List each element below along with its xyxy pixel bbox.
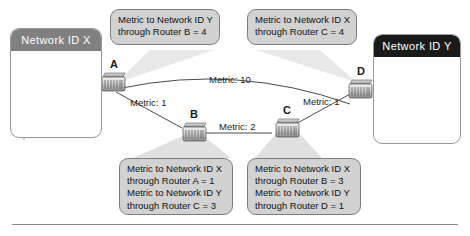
- router-icon: [349, 80, 372, 98]
- callout-d-line-1: Metric to Network ID X: [255, 14, 349, 26]
- network-box-x[interactable]: Network ID X: [10, 28, 102, 138]
- network-x-label: Network ID X: [11, 29, 101, 51]
- callout-router-c[interactable]: Metric to Network ID X through Router B …: [247, 158, 361, 215]
- network-x-hosts-area: [11, 51, 101, 137]
- router-icon: [102, 73, 125, 91]
- router-icon: [183, 123, 206, 141]
- callout-c-line-3: Metric to Network ID Y: [255, 187, 353, 199]
- cone-router-d: [256, 50, 356, 82]
- callout-a-line-2: through Router B = 4: [118, 26, 212, 38]
- callout-router-b[interactable]: Metric to Network ID X through Router A …: [119, 158, 233, 215]
- callout-b-line-2: through Router A = 1: [127, 175, 225, 187]
- router-label-c: C: [283, 104, 291, 116]
- cone-router-a: [116, 50, 214, 83]
- callout-router-a[interactable]: Metric to Network ID Y through Router B …: [110, 9, 220, 45]
- metric-label-b-c: Metric: 2: [219, 121, 255, 132]
- router-icon: [276, 119, 299, 137]
- bottom-divider: [12, 224, 458, 225]
- callout-b-line-1: Metric to Network ID X: [127, 163, 225, 175]
- cone-router-b: [133, 135, 231, 158]
- metric-label-a-b: Metric: 1: [130, 97, 166, 108]
- metric-label-c-d: Metric: 1: [303, 96, 339, 107]
- callout-b-line-3: Metric to Network ID Y: [127, 187, 225, 199]
- router-label-b: B: [190, 108, 198, 120]
- callout-a-line-1: Metric to Network ID Y: [118, 14, 212, 26]
- network-box-y[interactable]: Network ID Y: [373, 34, 461, 144]
- network-y-label: Network ID Y: [374, 35, 460, 57]
- router-label-a: A: [110, 58, 118, 70]
- callout-c-line-2: through Router B = 3: [255, 175, 353, 187]
- router-label-d: D: [357, 65, 365, 77]
- callout-c-line-1: Metric to Network ID X: [255, 163, 353, 175]
- network-y-hosts-area: [374, 57, 460, 143]
- callout-c-line-4: through Router D = 1: [255, 200, 353, 212]
- callout-d-line-2: through Router C = 4: [255, 26, 349, 38]
- diagram-canvas: Network ID X Network ID Y A B C D Metric…: [0, 0, 470, 236]
- callout-router-d[interactable]: Metric to Network ID X through Router C …: [247, 9, 357, 45]
- callout-b-line-4: through Router C = 3: [127, 200, 225, 212]
- metric-label-a-d: Metric: 10: [209, 74, 251, 85]
